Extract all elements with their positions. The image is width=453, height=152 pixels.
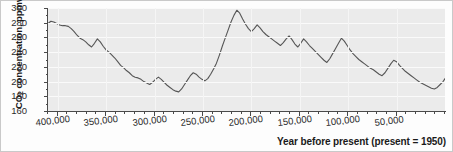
x-tick-label: 400,000 [35, 113, 70, 128]
gridline-vertical [203, 8, 204, 111]
y-tick-label: 180 [1, 90, 27, 101]
x-axis-ticks: 400,000350,000300,000250,000200,000150,0… [47, 112, 446, 118]
y-tick-major [44, 8, 48, 9]
chart-figure: CO2 concentration, ppmv 1601802002202402… [0, 0, 453, 152]
x-tick-minor [124, 112, 125, 114]
gridline-horizontal [48, 82, 445, 83]
y-tick-minor [46, 74, 48, 75]
x-tick-minor [318, 112, 319, 114]
x-tick-minor [434, 112, 435, 114]
gridline-horizontal [48, 8, 445, 9]
gridline-horizontal [48, 52, 445, 53]
x-tick-minor [231, 112, 232, 114]
y-tick-major [44, 52, 48, 53]
x-tick-minor [289, 112, 290, 114]
x-tick-minor [134, 112, 135, 114]
y-tick-label: 240 [1, 46, 27, 57]
x-tick-minor [221, 112, 222, 114]
x-tick-minor [337, 112, 338, 114]
y-tick-minor [46, 45, 48, 46]
x-tick-minor [270, 112, 271, 114]
y-tick-minor [46, 104, 48, 105]
gridline-vertical [106, 8, 107, 111]
x-tick-minor [47, 112, 48, 114]
x-tick-minor [241, 112, 242, 114]
x-tick-label: 100,000 [325, 113, 360, 128]
x-tick-minor [386, 112, 387, 114]
x-tick-minor [328, 112, 329, 114]
gridline-horizontal [48, 23, 445, 24]
x-tick-label: 200,000 [228, 113, 263, 128]
y-tick-major [44, 67, 48, 68]
y-tick-minor [46, 60, 48, 61]
gridline-vertical [58, 8, 59, 111]
gridline-horizontal [48, 67, 445, 68]
x-tick-minor [415, 112, 416, 114]
x-tick-minor [405, 112, 406, 114]
y-tick-minor [46, 89, 48, 90]
x-tick-minor [173, 112, 174, 114]
y-tick-label: 160 [1, 105, 27, 116]
y-tick-minor [46, 15, 48, 16]
y-tick-major [44, 23, 48, 24]
plot-area [48, 8, 445, 111]
y-axis-ticks: 160180200220240260280300 [21, 8, 48, 112]
x-tick-minor [86, 112, 87, 114]
gridline-vertical [397, 8, 398, 111]
x-tick-minor [444, 112, 445, 114]
x-tick-label: 50,000 [374, 113, 404, 127]
y-tick-label: 200 [1, 76, 27, 87]
x-tick-minor [144, 112, 145, 114]
x-tick-minor [376, 112, 377, 114]
gridline-vertical [251, 8, 252, 111]
y-tick-label: 220 [1, 61, 27, 72]
x-tick-minor [183, 112, 184, 114]
gridline-horizontal [48, 96, 445, 97]
gridline-vertical [348, 8, 349, 111]
x-tick-minor [192, 112, 193, 114]
x-tick-minor [425, 112, 426, 114]
gridline-vertical [300, 8, 301, 111]
y-tick-minor [46, 30, 48, 31]
y-tick-major [44, 82, 48, 83]
x-tick-label: 350,000 [83, 113, 118, 128]
x-tick-label: 150,000 [277, 113, 312, 128]
gridline-vertical [155, 8, 156, 111]
y-tick-label: 300 [1, 2, 27, 13]
x-axis-title: Year before present (present = 1950) [277, 136, 446, 147]
y-tick-major [44, 37, 48, 38]
x-tick-minor [279, 112, 280, 114]
x-tick-label: 250,000 [180, 113, 215, 128]
x-tick-label: 300,000 [132, 113, 167, 128]
gridline-horizontal [48, 37, 445, 38]
y-tick-major [44, 96, 48, 97]
y-tick-label: 260 [1, 31, 27, 42]
x-tick-minor [76, 112, 77, 114]
y-tick-label: 280 [1, 17, 27, 28]
x-tick-minor [367, 112, 368, 114]
x-tick-minor [95, 112, 96, 114]
